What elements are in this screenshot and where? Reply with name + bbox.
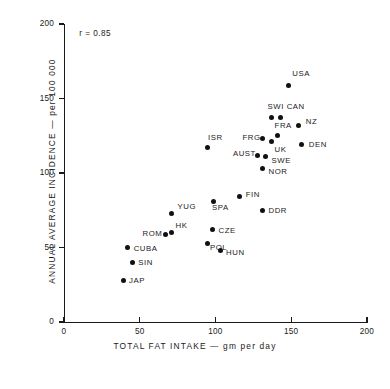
x-tick-200 bbox=[366, 317, 367, 322]
y-tick-100 bbox=[59, 172, 64, 173]
y-tick-50 bbox=[59, 247, 64, 248]
y-axis-line bbox=[64, 24, 65, 323]
data-point-yug[interactable] bbox=[169, 211, 174, 216]
data-point-rom[interactable] bbox=[163, 232, 168, 237]
data-point-label-swi: SWI bbox=[268, 102, 288, 111]
data-point-uk[interactable] bbox=[269, 139, 274, 144]
data-point-label-isr: ISR bbox=[208, 133, 223, 142]
x-tick-100 bbox=[215, 317, 216, 322]
data-point-isr[interactable] bbox=[205, 145, 210, 150]
data-point-label-hun: HUN bbox=[226, 248, 245, 257]
data-point-label-hk: HK bbox=[176, 221, 188, 230]
data-point-label-usa: USA bbox=[292, 69, 310, 78]
data-point-label-rom: ROM bbox=[143, 229, 163, 238]
data-point-label-nor: NOR bbox=[268, 167, 287, 176]
data-point-swi[interactable] bbox=[269, 115, 274, 120]
data-point-hun[interactable] bbox=[218, 248, 223, 253]
y-axis-title: ANNUAL AVERAGE INCIDENCE — per 100 000 bbox=[47, 21, 57, 321]
x-axis-title: TOTAL FAT INTAKE — gm per day bbox=[0, 341, 390, 351]
data-point-cuba[interactable] bbox=[125, 245, 130, 250]
data-point-label-aust: AUST bbox=[233, 149, 253, 158]
data-point-cze[interactable] bbox=[210, 227, 215, 232]
data-point-label-can: CAN bbox=[287, 102, 305, 111]
correlation-annotation: r = 0.85 bbox=[79, 29, 111, 38]
data-point-label-nz: NZ bbox=[306, 117, 318, 126]
x-tick-50 bbox=[139, 317, 140, 322]
data-point-fin[interactable] bbox=[237, 194, 242, 199]
x-tick-label-0: 0 bbox=[49, 327, 79, 336]
data-point-hk[interactable] bbox=[169, 230, 174, 235]
data-point-label-fin: FIN bbox=[246, 190, 260, 199]
data-point-label-ddr: DDR bbox=[268, 206, 287, 215]
x-tick-label-50: 50 bbox=[125, 327, 155, 336]
data-point-label-cuba: CUBA bbox=[134, 244, 158, 253]
y-tick-150 bbox=[59, 98, 64, 99]
data-point-can[interactable] bbox=[278, 115, 283, 120]
data-point-fra[interactable] bbox=[275, 133, 280, 138]
data-point-label-yug: YUG bbox=[178, 202, 197, 211]
data-point-label-spa: SPA bbox=[212, 203, 232, 212]
x-tick-150 bbox=[291, 317, 292, 322]
x-tick-0 bbox=[63, 317, 64, 322]
data-point-label-frg: FRG bbox=[242, 133, 262, 142]
data-point-ddr[interactable] bbox=[260, 208, 265, 213]
scatter-plot-figure: 050100150200 050100150200 ANNUAL AVERAGE… bbox=[0, 0, 390, 389]
y-tick-200 bbox=[59, 23, 64, 24]
data-point-jap[interactable] bbox=[121, 278, 126, 283]
data-point-nz[interactable] bbox=[296, 123, 301, 128]
data-point-nor[interactable] bbox=[260, 166, 265, 171]
x-tick-label-200: 200 bbox=[352, 327, 382, 336]
data-point-label-den: DEN bbox=[309, 140, 327, 149]
data-point-label-fra: FRA bbox=[275, 121, 295, 130]
data-point-aust[interactable] bbox=[255, 153, 260, 158]
data-point-sin[interactable] bbox=[130, 260, 135, 265]
x-tick-label-100: 100 bbox=[201, 327, 231, 336]
data-point-label-jap: JAP bbox=[129, 276, 145, 285]
data-point-label-swe: SWE bbox=[271, 156, 290, 165]
x-axis-line bbox=[64, 322, 368, 323]
data-point-usa[interactable] bbox=[286, 83, 291, 88]
data-point-label-cze: CZE bbox=[218, 226, 235, 235]
data-point-label-uk: UK bbox=[275, 145, 287, 154]
data-point-den[interactable] bbox=[299, 142, 304, 147]
x-tick-label-150: 150 bbox=[276, 327, 306, 336]
data-point-swe[interactable] bbox=[263, 154, 268, 159]
data-point-label-sin: SIN bbox=[138, 258, 153, 267]
